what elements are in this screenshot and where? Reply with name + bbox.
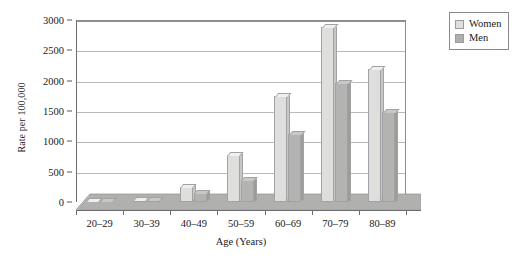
bar-women-50–59[interactable] <box>227 155 240 202</box>
y-axis-tick-mark <box>67 202 72 203</box>
x-axis-tick-mark <box>123 210 124 215</box>
bar-top-face <box>289 131 305 135</box>
x-axis-tick-label: 80–89 <box>369 218 395 229</box>
x-axis-tick-label: 40–49 <box>181 218 207 229</box>
bar-top-face <box>101 198 117 202</box>
y-axis-tick-label: 1000 <box>43 136 64 147</box>
bar-front-face <box>321 27 334 202</box>
bar-top-face <box>369 66 385 70</box>
bar-group <box>312 20 359 202</box>
bar-front-face <box>194 193 207 202</box>
bar-side-face <box>254 178 257 201</box>
y-axis-tick-label: 0 <box>59 197 64 208</box>
bar-front-face <box>368 69 381 202</box>
bar-men-70–79[interactable] <box>335 83 348 203</box>
bar-top-face <box>336 80 352 84</box>
bar-front-face <box>180 187 193 202</box>
bar-men-40–49[interactable] <box>194 193 207 202</box>
legend-label-women: Women <box>469 18 501 30</box>
x-axis-tick-label: 50–59 <box>228 218 254 229</box>
x-axis-tick-label: 30–39 <box>134 218 160 229</box>
legend-item-men[interactable]: Men <box>455 31 501 45</box>
bar-men-50–59[interactable] <box>241 180 254 202</box>
x-axis-tick-mark <box>76 210 77 215</box>
x-axis-tick-mark <box>359 210 360 215</box>
bar-group <box>359 20 406 202</box>
bar-front-face <box>241 180 254 202</box>
y-axis-tick-label: 3000 <box>43 15 64 26</box>
x-axis-line <box>76 210 421 211</box>
women-swatch-icon <box>455 20 464 29</box>
bar-front-face <box>288 134 301 202</box>
bar-group <box>123 20 170 202</box>
bar-women-70–79[interactable] <box>321 27 334 202</box>
y-axis-tick-mark <box>67 80 72 81</box>
bar-men-60–69[interactable] <box>288 134 301 202</box>
men-swatch-icon <box>455 34 464 43</box>
y-axis-ticks: 050010001500200025003000 <box>0 0 76 259</box>
y-axis-tick-label: 1500 <box>43 106 64 117</box>
bar-group <box>76 20 123 202</box>
bar-top-face <box>275 93 291 97</box>
legend-label-men: Men <box>469 32 488 44</box>
y-axis-tick-mark <box>67 50 72 51</box>
chart-legend: Women Men <box>449 12 509 50</box>
bar-side-face <box>348 80 351 201</box>
bar-men-20–29[interactable] <box>100 201 113 202</box>
bar-women-60–69[interactable] <box>274 96 287 202</box>
x-axis-tick-label: 20–29 <box>86 218 112 229</box>
x-axis-title: Age (Years) <box>76 236 406 247</box>
bar-series-layer <box>76 20 406 202</box>
bar-side-face <box>301 132 304 202</box>
x-axis-tick-label: 70–79 <box>322 218 348 229</box>
bar-front-face <box>227 155 240 202</box>
y-axis-tick-mark <box>67 20 72 21</box>
bar-front-face <box>274 96 287 202</box>
bar-side-face <box>395 110 398 201</box>
bar-front-face <box>335 83 348 203</box>
x-axis-tick-mark <box>406 210 407 215</box>
y-axis-tick-label: 500 <box>48 166 64 177</box>
y-axis-tick-mark <box>67 141 72 142</box>
bar-men-30–39[interactable] <box>147 200 160 202</box>
y-axis-tick-mark <box>67 171 72 172</box>
bar-women-30–39[interactable] <box>133 200 146 202</box>
bar-men-80–89[interactable] <box>382 112 395 202</box>
y-axis-tick-mark <box>67 111 72 112</box>
x-axis-tick-mark <box>217 210 218 215</box>
x-axis-tick-mark <box>170 210 171 215</box>
x-axis-tick-mark <box>312 210 313 215</box>
bar-women-40–49[interactable] <box>180 187 193 202</box>
bar-group <box>265 20 312 202</box>
bar-top-face <box>148 197 164 201</box>
legend-item-women[interactable]: Women <box>455 17 501 31</box>
bar-front-face <box>382 112 395 202</box>
x-axis-ticks: 20–2930–3940–4950–5960–6970–7980–89 <box>76 212 421 234</box>
bar-chart-figure: Rate per 100,000 05001000150020002500300… <box>0 0 521 259</box>
bar-women-80–89[interactable] <box>368 69 381 202</box>
bar-group <box>170 20 217 202</box>
bar-women-20–29[interactable] <box>86 201 99 202</box>
y-axis-tick-label: 2500 <box>43 45 64 56</box>
y-axis-tick-label: 2000 <box>43 75 64 86</box>
bar-group <box>217 20 264 202</box>
x-axis-tick-mark <box>265 210 266 215</box>
x-axis-tick-label: 60–69 <box>275 218 301 229</box>
